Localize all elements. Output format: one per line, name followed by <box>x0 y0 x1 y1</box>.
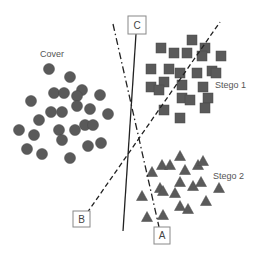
cover-point <box>46 107 57 118</box>
boundary-line-c <box>123 34 136 231</box>
cover-cluster <box>14 64 114 164</box>
stego1-point <box>198 82 208 92</box>
cover-point <box>54 125 65 136</box>
stego1-point <box>200 103 210 113</box>
cover-point <box>95 90 106 101</box>
boundary-label-c: C <box>133 20 140 31</box>
classification-diagram: ABC Cover Stego 1 Stego 2 <box>0 0 256 255</box>
cover-point <box>65 153 76 164</box>
stego1-point <box>216 51 226 61</box>
cover-point <box>65 72 76 83</box>
cover-point <box>14 125 25 136</box>
stego1-point <box>187 35 197 45</box>
stego2-point <box>142 212 153 222</box>
stego2-point <box>214 183 225 193</box>
cover-point <box>57 107 68 118</box>
stego1-point <box>156 43 166 53</box>
stego1-cluster <box>146 35 226 123</box>
cover-point <box>59 88 70 99</box>
stego2-point <box>165 160 176 170</box>
stego1-label: Stego 1 <box>215 80 246 90</box>
stego1-point <box>185 95 195 105</box>
stego1-point <box>211 68 221 78</box>
stego1-point <box>175 68 185 78</box>
stego2-point <box>175 201 186 211</box>
stego1-point <box>154 85 164 95</box>
cover-point <box>103 109 114 120</box>
stego2-point <box>180 165 191 175</box>
boundary-label-a: A <box>159 230 166 241</box>
cover-point <box>83 141 94 152</box>
cover-point <box>29 130 40 141</box>
stego1-point <box>192 68 202 78</box>
cover-point <box>44 64 55 75</box>
cover-label: Cover <box>40 49 64 59</box>
stego2-point <box>137 191 148 201</box>
cover-point <box>37 149 48 160</box>
stego2-point <box>196 177 207 187</box>
cover-point <box>72 101 83 112</box>
stego2-point <box>158 210 169 220</box>
stego2-point <box>175 177 186 187</box>
stego1-point <box>164 64 174 74</box>
stego1-point <box>169 48 179 58</box>
cover-point <box>26 96 37 107</box>
stego2-point <box>147 167 158 177</box>
cover-point <box>88 120 99 131</box>
cover-point <box>70 125 81 136</box>
boundary-label-b: B <box>78 214 85 225</box>
stego1-point <box>182 48 192 58</box>
cover-point <box>49 88 60 99</box>
stego1-point <box>203 93 213 103</box>
boundary-line-a <box>113 24 159 227</box>
stego1-point <box>146 64 156 74</box>
cover-point <box>72 91 83 102</box>
stego2-point <box>198 156 209 166</box>
cover-point <box>57 135 68 146</box>
cover-point <box>22 144 33 155</box>
stego2-label: Stego 2 <box>213 171 244 181</box>
stego1-point <box>175 113 185 123</box>
stego2-point <box>170 188 181 198</box>
cover-point <box>96 138 107 149</box>
stego2-point <box>201 196 212 206</box>
cover-point <box>85 104 96 115</box>
cover-point <box>34 115 45 126</box>
stego2-point <box>175 151 186 161</box>
